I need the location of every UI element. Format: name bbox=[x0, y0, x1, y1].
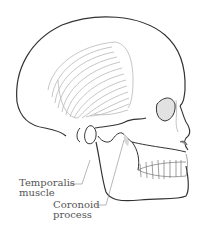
coronoid-shading bbox=[124, 134, 129, 146]
teeth bbox=[138, 154, 188, 179]
skull-temporalis-illustration: Temporalis muscle Coronoid process bbox=[0, 0, 202, 231]
occipital-outline bbox=[17, 102, 66, 136]
nasal-bone bbox=[180, 141, 187, 145]
temporalis-muscle bbox=[48, 42, 133, 118]
coronoid-leader-line bbox=[96, 140, 124, 205]
orbit bbox=[156, 98, 175, 121]
coronoid-process-label: Coronoid process bbox=[53, 200, 100, 220]
label-line: muscle bbox=[19, 188, 75, 198]
mandibular-condyle bbox=[85, 126, 97, 144]
mandible-ramus bbox=[132, 142, 139, 170]
label-line: process bbox=[53, 210, 100, 220]
temporalis-muscle-label: Temporalis muscle bbox=[19, 178, 75, 198]
maxilla-outline bbox=[132, 142, 186, 152]
zygomatic-arch bbox=[95, 118, 146, 128]
maxilla-detail bbox=[176, 100, 178, 132]
mastoid bbox=[77, 128, 80, 142]
